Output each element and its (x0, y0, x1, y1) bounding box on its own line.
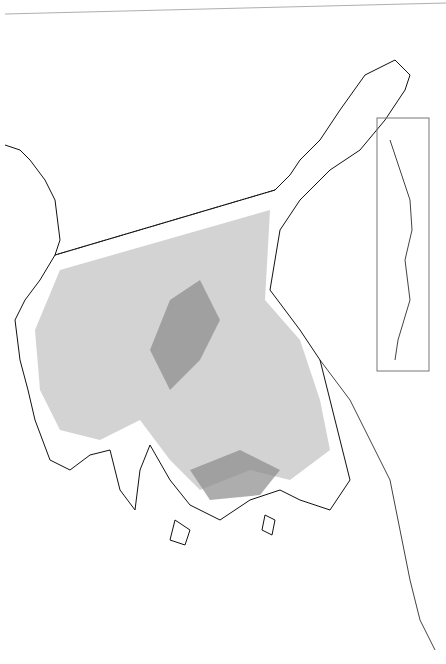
top-edge-line (5, 3, 446, 14)
coast-outline-east (320, 360, 435, 650)
map-canvas (0, 0, 446, 664)
inset-frame (377, 118, 429, 371)
coast-outline-west (5, 145, 60, 255)
inset-islands (390, 140, 412, 360)
island (262, 515, 275, 535)
island (170, 520, 190, 545)
mainland (15, 60, 410, 520)
